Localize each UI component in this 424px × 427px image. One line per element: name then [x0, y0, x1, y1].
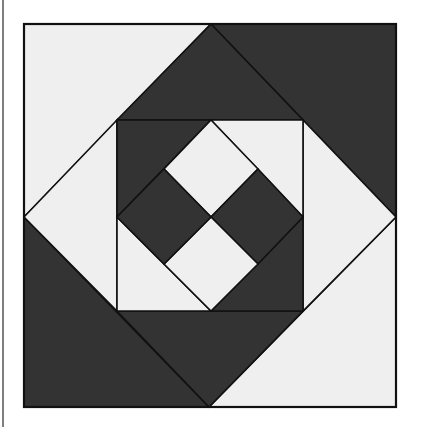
quilt-pieces — [24, 24, 396, 407]
quilt-block-diagram — [0, 0, 424, 427]
